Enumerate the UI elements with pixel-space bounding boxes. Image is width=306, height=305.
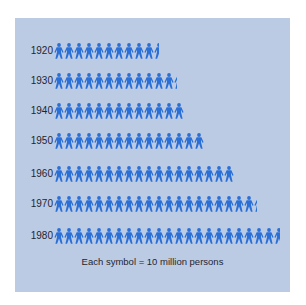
person-icon [114, 133, 124, 149]
person-icon [144, 166, 154, 182]
person-icon [154, 103, 164, 119]
person-icon [134, 133, 144, 149]
person-icon [204, 196, 214, 212]
person-icon [144, 73, 154, 89]
person-icon [124, 228, 134, 244]
person-icon [194, 196, 204, 212]
person-icon [94, 73, 104, 89]
person-icon [144, 196, 154, 212]
person-icon [84, 73, 94, 89]
person-icon [124, 73, 134, 89]
person-icon [114, 73, 124, 89]
person-icon [174, 133, 184, 149]
person-icon [134, 103, 144, 119]
person-icon [214, 228, 224, 244]
person-icon [164, 73, 174, 89]
partial-person-icon [274, 228, 280, 244]
person-icon [164, 133, 174, 149]
pictograph-row: 1960 [15, 164, 53, 182]
symbol-bar [54, 226, 280, 244]
chart-panel: 1920193019401950196019701980 Each symbol… [15, 18, 290, 292]
person-icon [74, 228, 84, 244]
person-icon [84, 43, 94, 59]
person-icon [114, 166, 124, 182]
person-icon [224, 166, 234, 182]
person-icon [144, 228, 154, 244]
person-icon [64, 103, 74, 119]
person-icon [174, 228, 184, 244]
person-icon [124, 103, 134, 119]
person-icon [84, 228, 94, 244]
pictograph-row: 1980 [15, 226, 53, 244]
person-icon [54, 73, 64, 89]
pictograph-row: 1970 [15, 194, 53, 212]
person-icon [64, 73, 74, 89]
person-icon [94, 133, 104, 149]
person-icon [254, 228, 264, 244]
symbol-bar [54, 194, 257, 212]
person-icon [164, 196, 174, 212]
pictograph-row: 1950 [15, 131, 53, 149]
person-icon [114, 228, 124, 244]
symbol-bar [54, 101, 184, 119]
person-icon [154, 73, 164, 89]
person-icon [234, 228, 244, 244]
person-icon [74, 196, 84, 212]
person-icon [154, 166, 164, 182]
person-icon [64, 228, 74, 244]
partial-person-icon [174, 73, 177, 89]
person-icon [184, 166, 194, 182]
person-icon [54, 43, 64, 59]
person-icon [54, 166, 64, 182]
symbol-bar [54, 164, 234, 182]
person-icon [144, 103, 154, 119]
person-icon [194, 133, 204, 149]
person-icon [104, 43, 114, 59]
person-icon [104, 103, 114, 119]
person-icon [144, 43, 154, 59]
year-label: 1960 [15, 168, 53, 179]
person-icon [64, 133, 74, 149]
pictograph-row: 1920 [15, 41, 53, 59]
person-icon [114, 196, 124, 212]
person-icon [124, 196, 134, 212]
person-icon [64, 43, 74, 59]
symbol-bar [54, 131, 204, 149]
year-label: 1950 [15, 135, 53, 146]
person-icon [84, 196, 94, 212]
person-icon [164, 228, 174, 244]
pictograph-row: 1930 [15, 71, 53, 89]
person-icon [134, 228, 144, 244]
person-icon [174, 166, 184, 182]
year-label: 1970 [15, 198, 53, 209]
person-icon [174, 103, 184, 119]
person-icon [154, 133, 164, 149]
partial-person-icon [154, 43, 159, 59]
person-icon [124, 43, 134, 59]
person-icon [84, 103, 94, 119]
person-icon [84, 133, 94, 149]
person-icon [264, 228, 274, 244]
person-icon [184, 196, 194, 212]
person-icon [204, 166, 214, 182]
person-icon [54, 103, 64, 119]
year-label: 1980 [15, 230, 53, 241]
person-icon [54, 133, 64, 149]
person-icon [184, 228, 194, 244]
person-icon [54, 196, 64, 212]
legend-note: Each symbol = 10 million persons [15, 256, 290, 267]
person-icon [234, 196, 244, 212]
person-icon [144, 133, 154, 149]
person-icon [74, 43, 84, 59]
person-icon [54, 228, 64, 244]
person-icon [224, 196, 234, 212]
person-icon [194, 228, 204, 244]
person-icon [114, 103, 124, 119]
person-icon [64, 196, 74, 212]
person-icon [214, 196, 224, 212]
person-icon [74, 133, 84, 149]
person-icon [184, 133, 194, 149]
person-icon [94, 196, 104, 212]
person-icon [74, 166, 84, 182]
person-icon [174, 196, 184, 212]
